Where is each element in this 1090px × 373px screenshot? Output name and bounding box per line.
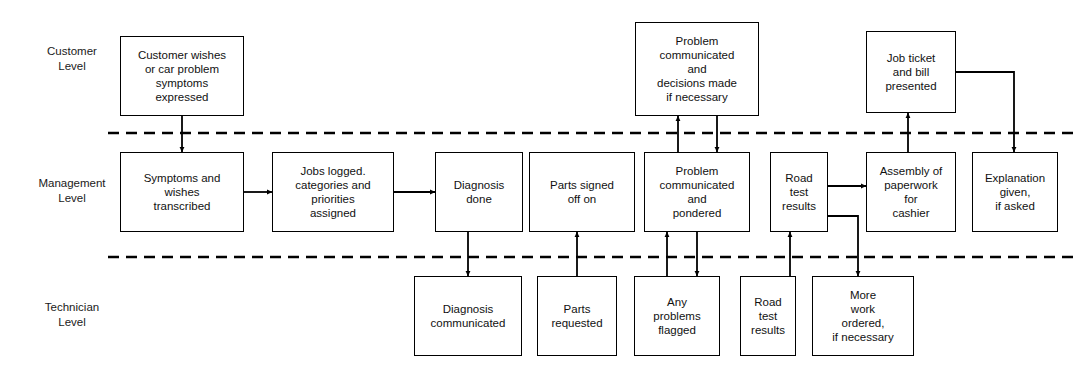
node-symptoms-transcribed[interactable]: Symptoms and wishes transcribed [120,152,244,232]
node-label: Customer wishes or car problem symptoms … [138,48,226,104]
node-label: Jobs logged. categories and priorities a… [295,164,370,220]
node-any-problems-flagged[interactable]: Any problems flagged [634,276,720,356]
node-more-work-ordered[interactable]: More work ordered, if necessary [812,276,914,356]
node-problem-decisions[interactable]: Problem communicated and decisions made … [635,22,759,116]
node-label: Symptoms and wishes transcribed [144,171,221,213]
conn-roadtest-to-more-work [828,216,858,276]
node-road-test-results-mgmt[interactable]: Road test results [770,152,828,232]
node-customer-wishes[interactable]: Customer wishes or car problem symptoms … [120,36,244,116]
node-label: Problem communicated and pondered [660,164,735,220]
node-label: Parts requested [551,302,602,330]
node-label: Job ticket and bill presented [885,51,936,93]
node-label: Road test results [782,171,816,213]
node-label: Any problems flagged [653,295,700,337]
node-label: Diagnosis communicated [431,302,506,330]
conn-job-ticket-to-explanation [956,72,1014,152]
node-label: Explanation given, if asked [985,171,1045,213]
node-job-ticket-bill[interactable]: Job ticket and bill presented [866,31,956,113]
flowchart-canvas: Customer LevelManagement LevelTechnician… [0,0,1090,373]
node-label: More work ordered, if necessary [832,288,893,344]
node-explanation-given[interactable]: Explanation given, if asked [972,152,1058,232]
node-label: Road test results [751,295,785,337]
node-label: Problem communicated and decisions made … [657,34,737,104]
node-label: Assembly of paperwork for cashier [880,164,943,220]
node-diagnosis-done[interactable]: Diagnosis done [435,152,523,232]
node-parts-signed-off[interactable]: Parts signed off on [529,152,635,232]
lane-label-customer: Customer Level [26,44,118,74]
node-label: Diagnosis done [454,178,505,206]
node-label: Parts signed off on [550,178,614,206]
node-jobs-logged[interactable]: Jobs logged. categories and priorities a… [272,152,394,232]
node-problem-pondered[interactable]: Problem communicated and pondered [644,152,750,232]
node-road-test-results-tech[interactable]: Road test results [740,276,796,356]
lane-label-technician: Technician Level [24,300,120,330]
lane-label-management: Management Level [19,176,125,206]
node-assembly-paperwork[interactable]: Assembly of paperwork for cashier [866,152,956,232]
node-parts-requested[interactable]: Parts requested [537,276,617,356]
node-diagnosis-communicated[interactable]: Diagnosis communicated [414,276,522,356]
